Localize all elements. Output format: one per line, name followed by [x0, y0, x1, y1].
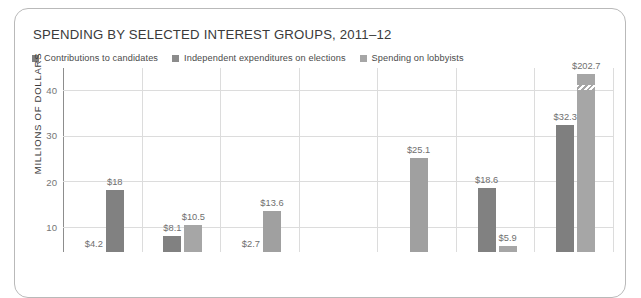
- bar-value-label: $2.7: [242, 239, 260, 249]
- plot-area: $4.2$18$8.1$10.5$2.7$13.6$25.1$18.6$5.9$…: [63, 68, 613, 252]
- chart-legend: Contributions to candidates Independent …: [32, 53, 464, 63]
- legend-item-independent-expenditures: Independent expenditures on elections: [172, 53, 346, 63]
- y-tick-label: 20: [46, 177, 57, 188]
- gridline-vertical: [299, 68, 300, 252]
- bar-value-label: $4.2: [85, 239, 103, 249]
- gridline-horizontal: [63, 181, 613, 182]
- bar-value-label: $10.5: [182, 212, 205, 222]
- gridline-vertical: [613, 68, 614, 252]
- chart-title: SPENDING BY SELECTED INTEREST GROUPS, 20…: [33, 27, 391, 42]
- bar-value-label: $18.6: [475, 175, 498, 185]
- gridline-horizontal: [63, 90, 613, 91]
- legend-label: Independent expenditures on elections: [184, 53, 346, 63]
- y-axis-line: [63, 68, 64, 252]
- gridline-vertical: [142, 68, 143, 252]
- axis-break-icon: [577, 85, 595, 90]
- bar-value-label: $202.7: [572, 61, 600, 71]
- legend-swatch-icon: [360, 55, 367, 62]
- chart-bar: [163, 236, 181, 252]
- gridline-horizontal: [63, 136, 613, 137]
- gridline-vertical: [220, 68, 221, 252]
- legend-label: Contributions to candidates: [44, 53, 158, 63]
- legend-item-contributions: Contributions to candidates: [32, 53, 158, 63]
- chart-bar: [410, 158, 428, 252]
- legend-swatch-icon: [172, 55, 179, 62]
- chart-bar: [499, 246, 517, 252]
- bar-value-label: $13.6: [260, 198, 283, 208]
- chart-bar: [263, 211, 281, 252]
- legend-item-lobbyists: Spending on lobbyists: [360, 53, 464, 63]
- chart-bar: [577, 74, 595, 252]
- legend-label: Spending on lobbyists: [372, 53, 464, 63]
- chart-bar: [184, 225, 202, 252]
- y-tick-label: 40: [46, 85, 57, 96]
- bar-value-label: $18: [107, 177, 123, 187]
- chart-bar: [106, 190, 124, 252]
- gridline-horizontal: [63, 227, 613, 228]
- y-tick-label: 30: [46, 130, 57, 141]
- gridline-vertical: [534, 68, 535, 252]
- chart-bar: [478, 188, 496, 252]
- y-tick-label: 10: [46, 222, 57, 233]
- gridline-vertical: [377, 68, 378, 252]
- y-axis-title: MILLIONS OF DOLLARS: [32, 44, 43, 184]
- bar-value-label: $8.1: [163, 223, 181, 233]
- gridline-vertical: [456, 68, 457, 252]
- bar-value-label: $25.1: [407, 145, 430, 155]
- bar-value-label: $5.9: [499, 233, 517, 243]
- bar-value-label: $32.3: [554, 112, 577, 122]
- chart-bar: [556, 125, 574, 252]
